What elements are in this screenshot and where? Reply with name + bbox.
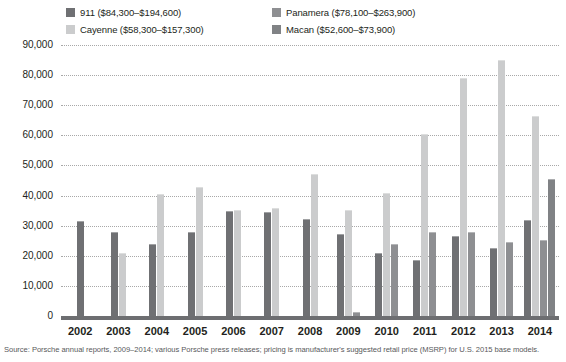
bar-group-2011 — [406, 45, 444, 316]
bar-highlight — [413, 260, 420, 261]
bar-highlight — [429, 232, 436, 233]
bar-911-2009[interactable] — [337, 234, 344, 316]
y-axis-tick-30000: 30,000 — [0, 221, 53, 231]
x-axis-tick-2014: 2014 — [521, 325, 559, 341]
bar-highlight — [77, 221, 84, 222]
bar-highlight — [196, 187, 203, 188]
x-axis-tick-2004: 2004 — [138, 325, 176, 341]
bar-highlight — [532, 116, 539, 117]
legend-item-panamera: Panamera ($78,100–$263,900) — [272, 4, 496, 21]
bar-panamera-2012[interactable] — [468, 232, 475, 316]
bar-911-2003[interactable] — [111, 232, 118, 316]
bar-macan-2014[interactable] — [548, 179, 555, 316]
x-axis-tick-2011: 2011 — [406, 325, 444, 341]
y-axis-tick-50000: 50,000 — [0, 160, 53, 170]
bar-group-2006 — [214, 45, 252, 316]
bar-cayenne-2004[interactable] — [157, 194, 164, 316]
y-axis-tick-90000: 90,000 — [0, 40, 53, 50]
bar-911-2007[interactable] — [264, 212, 271, 316]
bar-group-2003 — [99, 45, 137, 316]
legend-swatch-cayenne — [66, 25, 75, 34]
bar-group-2007 — [253, 45, 291, 316]
bar-groups — [61, 45, 559, 316]
x-axis-tick-2006: 2006 — [214, 325, 252, 341]
bar-highlight — [391, 244, 398, 245]
bar-911-2002[interactable] — [77, 221, 84, 316]
y-axis-tick-70000: 70,000 — [0, 100, 53, 110]
legend-swatch-panamera — [272, 8, 281, 17]
legend-item-911: 911 ($84,300–$194,600) — [66, 4, 266, 21]
bar-highlight — [498, 60, 505, 61]
bar-group-2013 — [482, 45, 520, 316]
legend-label-911: 911 ($84,300–$194,600) — [80, 8, 181, 18]
y-axis-tick-80000: 80,000 — [0, 70, 53, 80]
legend-item-macan: Macan ($52,600–$73,900) — [272, 21, 496, 38]
bar-911-2013[interactable] — [490, 248, 497, 316]
bar-group-2009 — [329, 45, 367, 316]
x-axis-tick-2007: 2007 — [253, 325, 291, 341]
bar-cayenne-2006[interactable] — [234, 210, 241, 316]
x-axis-line — [61, 316, 559, 320]
bar-panamera-2010[interactable] — [391, 244, 398, 316]
y-axis-tick-0: 0 — [0, 311, 53, 321]
x-axis-tick-labels: 2002200320042005200620072008200920102011… — [61, 325, 559, 341]
y-axis-tick-60000: 60,000 — [0, 130, 53, 140]
legend-label-cayenne: Cayenne ($58,300–$157,300) — [80, 25, 204, 35]
bar-group-2005 — [176, 45, 214, 316]
bar-highlight — [452, 236, 459, 237]
bar-highlight — [421, 134, 428, 135]
bar-cayenne-2003[interactable] — [119, 253, 126, 316]
bar-highlight — [524, 220, 531, 221]
y-axis-tick-40000: 40,000 — [0, 191, 53, 201]
legend-swatch-911 — [66, 8, 75, 17]
bar-panamera-2011[interactable] — [429, 232, 436, 316]
y-axis-tick-10000: 10,000 — [0, 281, 53, 291]
bar-cayenne-2010[interactable] — [383, 193, 390, 316]
bar-911-2004[interactable] — [149, 244, 156, 316]
x-axis-tick-2005: 2005 — [176, 325, 214, 341]
x-axis-tick-2002: 2002 — [61, 325, 99, 341]
bar-highlight — [119, 253, 126, 254]
bar-highlight — [264, 212, 271, 213]
x-axis-tick-2008: 2008 — [291, 325, 329, 341]
x-axis-tick-2009: 2009 — [329, 325, 367, 341]
chart-plot-area — [61, 45, 559, 320]
bar-cayenne-2009[interactable] — [345, 210, 352, 316]
bar-group-2004 — [138, 45, 176, 316]
source-note: Source: Porsche annual reports, 2009–201… — [4, 345, 562, 354]
bar-highlight — [468, 232, 475, 233]
bar-panamera-2013[interactable] — [506, 242, 513, 316]
x-axis-tick-2003: 2003 — [99, 325, 137, 341]
bar-highlight — [345, 210, 352, 211]
bar-panamera-2014[interactable] — [540, 240, 547, 316]
bar-highlight — [353, 312, 360, 313]
bar-highlight — [188, 232, 195, 233]
bar-highlight — [548, 179, 555, 180]
bar-cayenne-2013[interactable] — [498, 60, 505, 316]
bar-911-2006[interactable] — [226, 211, 233, 316]
x-axis-tick-2013: 2013 — [482, 325, 520, 341]
bar-cayenne-2014[interactable] — [532, 116, 539, 316]
chart-legend: 911 ($84,300–$194,600) Panamera ($78,100… — [66, 4, 496, 38]
bar-911-2005[interactable] — [188, 232, 195, 316]
bar-highlight — [226, 211, 233, 212]
bar-cayenne-2008[interactable] — [311, 174, 318, 316]
bar-cayenne-2007[interactable] — [272, 208, 279, 316]
bar-highlight — [272, 208, 279, 209]
x-axis-tick-2012: 2012 — [444, 325, 482, 341]
bar-911-2014[interactable] — [524, 220, 531, 316]
bar-911-2011[interactable] — [413, 260, 420, 316]
bar-cayenne-2012[interactable] — [460, 78, 467, 316]
legend-item-cayenne: Cayenne ($58,300–$157,300) — [66, 21, 266, 38]
bar-highlight — [111, 232, 118, 233]
legend-label-panamera: Panamera ($78,100–$263,900) — [286, 8, 415, 18]
bar-911-2010[interactable] — [375, 253, 382, 316]
bar-911-2008[interactable] — [303, 219, 310, 316]
bar-highlight — [234, 210, 241, 211]
bar-911-2012[interactable] — [452, 236, 459, 316]
bar-highlight — [311, 174, 318, 175]
bar-group-2002 — [61, 45, 99, 316]
bar-cayenne-2005[interactable] — [196, 187, 203, 316]
bar-highlight — [460, 78, 467, 79]
bar-cayenne-2011[interactable] — [421, 134, 428, 316]
